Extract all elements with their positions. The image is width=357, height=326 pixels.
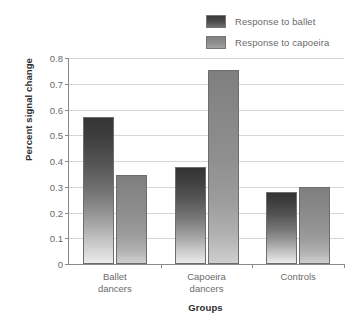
legend-label-series-1: Response to capoeira [235,37,329,48]
legend-item-response-to-capoeira: Response to capoeira [206,32,356,53]
x-tick-mark [161,264,162,268]
y-tick-label: 0 [58,259,63,270]
y-tick-label: 0.7 [50,78,63,89]
plot-area: 00.10.20.30.40.50.60.70.8 BalletdancersC… [68,58,344,265]
y-tick-label: 0.2 [50,207,63,218]
bar-group-container [69,58,344,264]
x-tick-label-line: Ballet [103,271,127,282]
chart-legend: Response to ballet Response to capoeira [206,11,356,53]
bar-0-series-1 [116,175,147,264]
y-tick-label: 0.1 [50,233,63,244]
y-tick-mark [65,264,69,265]
x-tick-label-1: Capoeiradancers [187,271,226,294]
x-axis-title: Groups [68,302,343,313]
y-tick-label: 0.3 [50,181,63,192]
legend-swatch-icon-series-1 [206,36,226,49]
legend-label-series-0: Response to ballet [235,16,316,27]
bar-0-series-0 [83,117,114,264]
bar-2-series-1 [299,187,330,264]
y-tick-label: 0.4 [50,156,63,167]
x-tick-mark [252,264,253,268]
legend-item-response-to-ballet: Response to ballet [206,11,356,32]
y-tick-label: 0.8 [50,53,63,64]
y-tick-label: 0.5 [50,130,63,141]
x-tick-label-line: dancers [98,283,132,294]
x-tick-label-0: Balletdancers [98,271,132,294]
x-tick-label-line: Controls [280,271,315,282]
bar-2-series-0 [266,192,297,264]
x-tick-label-line: dancers [190,283,224,294]
x-tick-mark [344,264,345,268]
bar-1-series-1 [208,70,239,264]
x-tick-label-line: Capoeira [187,271,226,282]
y-tick-label: 0.6 [50,104,63,115]
y-axis-title: Percent signal change [23,30,34,190]
legend-swatch-icon-series-0 [206,15,226,28]
bar-1-series-0 [175,167,206,264]
x-tick-label-2: Controls [280,271,315,283]
